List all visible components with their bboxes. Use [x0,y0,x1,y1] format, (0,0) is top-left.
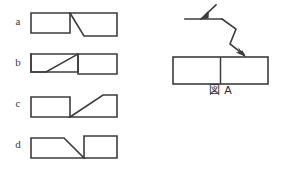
option-c-svg [26,86,122,126]
option-shape-c [26,86,122,126]
option-shape-d [26,127,122,167]
option-b-svg [26,45,122,85]
figure-canvas: a b c [0,0,291,169]
reference-figure-panel: 図 A [150,0,291,169]
option-shape-b [26,45,122,85]
option-label-a: a [11,15,25,27]
figure-a-svg [150,0,291,84]
option-d-svg [26,127,122,167]
option-row-d[interactable]: d [0,127,145,167]
option-row-a[interactable]: a [0,4,145,44]
option-label-d: d [11,138,25,150]
figure-caption: 図 A [150,84,291,98]
answer-options-panel: a b c [0,0,145,169]
option-row-c[interactable]: c [0,86,145,126]
option-label-c: c [11,97,25,109]
option-shape-a [26,4,122,44]
option-row-b[interactable]: b [0,45,145,85]
option-a-svg [26,4,122,44]
option-label-b: b [11,56,25,68]
